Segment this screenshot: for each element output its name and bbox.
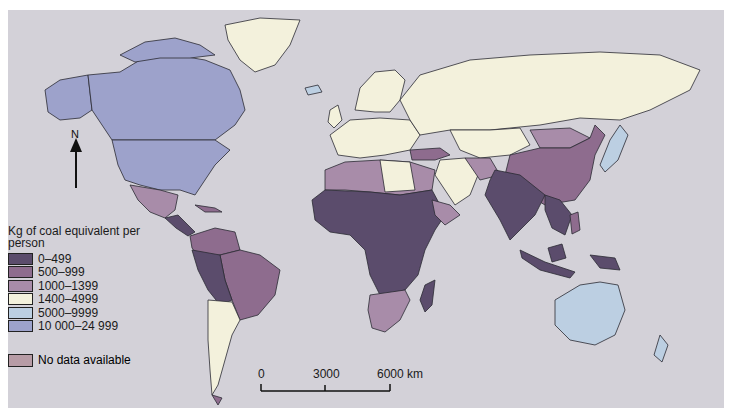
scale-bar: 0 3000 6000 km <box>255 367 435 397</box>
legend-label: 1400–4999 <box>38 292 98 306</box>
region-libya <box>380 160 415 192</box>
legend-swatch <box>8 280 33 292</box>
legend-label: 5000–9999 <box>38 306 98 320</box>
north-arrow: N <box>68 128 84 188</box>
legend-item: 5000–9999 <box>8 306 148 320</box>
legend: Kg of coal equivalent per person 0–499 5… <box>8 225 148 333</box>
legend-item: 10 000–24 999 <box>8 320 148 334</box>
legend-label: 10 000–24 999 <box>38 319 118 333</box>
north-arrow-icon <box>68 138 84 198</box>
legend-swatch <box>8 293 33 305</box>
region-north-africa <box>325 160 435 195</box>
no-data-label: No data available <box>38 353 131 367</box>
legend-item: 0–499 <box>8 252 148 266</box>
legend-title: Kg of coal equivalent per person <box>8 225 148 249</box>
map-canvas <box>8 10 724 408</box>
no-data-swatch <box>8 354 33 367</box>
legend-swatch <box>8 307 33 319</box>
legend-item: 1400–4999 <box>8 293 148 307</box>
legend-item: 500–999 <box>8 266 148 280</box>
legend-swatch <box>8 253 33 265</box>
region-philippines <box>570 212 580 234</box>
world-map <box>8 10 724 408</box>
legend-swatch <box>8 320 33 332</box>
legend-no-data: No data available <box>8 353 131 367</box>
legend-items: 0–499 500–999 1000–1399 1400–4999 5000–9… <box>8 252 148 333</box>
legend-label: 500–999 <box>38 265 85 279</box>
scale-bar-line <box>255 379 435 399</box>
legend-item: 1000–1399 <box>8 279 148 293</box>
legend-swatch <box>8 266 33 278</box>
legend-label: 0–499 <box>38 252 71 266</box>
legend-label: 1000–1399 <box>38 279 98 293</box>
